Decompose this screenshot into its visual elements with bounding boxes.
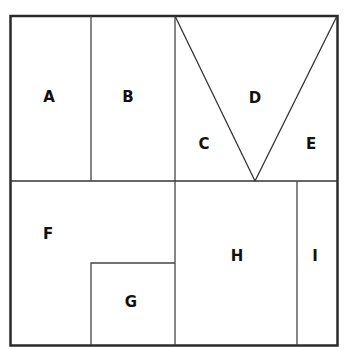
label-e: E xyxy=(306,135,316,153)
label-g: G xyxy=(125,293,137,311)
label-c: C xyxy=(198,135,209,153)
label-d: D xyxy=(249,89,261,107)
v-left-edge xyxy=(175,16,255,181)
label-f: F xyxy=(43,225,53,243)
region-labels: A B C D E F G H I xyxy=(43,88,318,311)
partition-diagram: A B C D E F G H I xyxy=(0,0,347,350)
label-i: I xyxy=(312,247,318,265)
label-b: B xyxy=(122,88,133,106)
label-h: H xyxy=(231,247,244,265)
label-a: A xyxy=(43,88,55,106)
v-right-edge xyxy=(255,16,337,181)
